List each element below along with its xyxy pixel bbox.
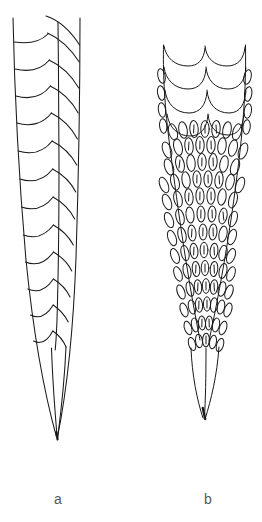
figure-background (0, 0, 262, 522)
panel-b-scale-slit (216, 125, 217, 133)
figure-illustration (0, 0, 262, 522)
panel-b-scale-slit (189, 193, 190, 201)
panel-a-tip (56, 432, 57, 440)
figure-label-a: a (48, 492, 68, 506)
figure-label-b: b (198, 492, 218, 506)
panel-b-scale-slit (189, 142, 190, 150)
panel-b-scale-slit (192, 229, 193, 237)
panel-b-scale-slit (219, 176, 220, 184)
